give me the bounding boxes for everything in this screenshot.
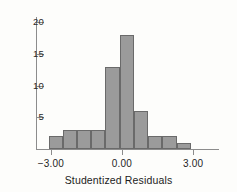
x-tick-mark xyxy=(122,150,123,155)
x-axis-title: Studentized Residuals xyxy=(0,174,237,186)
y-tick-label: 10 xyxy=(22,81,44,91)
histogram-bar xyxy=(120,35,134,149)
x-tick-label: 3.00 xyxy=(171,158,215,170)
histogram-bar xyxy=(63,130,77,149)
histogram-bar xyxy=(134,111,148,149)
y-tick-label: 20 xyxy=(22,17,44,27)
histogram-bar xyxy=(91,130,105,149)
histogram-bar xyxy=(162,136,176,149)
histogram-bar xyxy=(77,130,91,149)
x-tick-label: −3.00 xyxy=(29,158,73,170)
histogram-bar xyxy=(148,136,162,149)
histogram-chart: 5101520 −3.000.003.00 Studentized Residu… xyxy=(0,0,237,192)
y-tick-label: 5 xyxy=(22,112,44,122)
y-tick-label-wrap: 15 xyxy=(0,49,44,59)
y-tick-label: 15 xyxy=(22,49,44,59)
x-tick-mark xyxy=(193,150,194,155)
y-tick-label-wrap: 20 xyxy=(0,17,44,27)
histogram-bar xyxy=(177,143,191,149)
x-tick-mark xyxy=(51,150,52,155)
plot-area: 5101520 −3.000.003.00 xyxy=(0,0,237,192)
histogram-bar xyxy=(105,67,119,149)
y-tick-label-wrap: 5 xyxy=(0,112,44,122)
y-tick-label-wrap: 10 xyxy=(0,81,44,91)
x-tick-label: 0.00 xyxy=(100,158,144,170)
x-axis-line xyxy=(36,149,219,150)
histogram-bar xyxy=(49,136,63,149)
